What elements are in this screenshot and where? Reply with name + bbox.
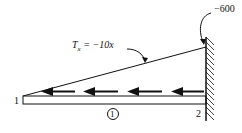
node-1-label: 1 — [14, 96, 19, 106]
node-2-label: 2 — [196, 109, 201, 119]
bar-element — [23, 96, 206, 104]
end-reaction-label: −600 — [214, 4, 235, 14]
distributed-torque-arrows — [44, 89, 204, 95]
torque-expression-label: Tx = −10x — [72, 40, 114, 54]
reaction-arrowhead-icon — [200, 39, 206, 45]
torque-label-leader — [127, 49, 145, 61]
torsion-diagram — [0, 0, 242, 133]
element-number-label: 1 — [110, 109, 115, 119]
leader-arrowhead-icon — [142, 57, 148, 63]
fixed-wall-icon — [206, 37, 214, 121]
